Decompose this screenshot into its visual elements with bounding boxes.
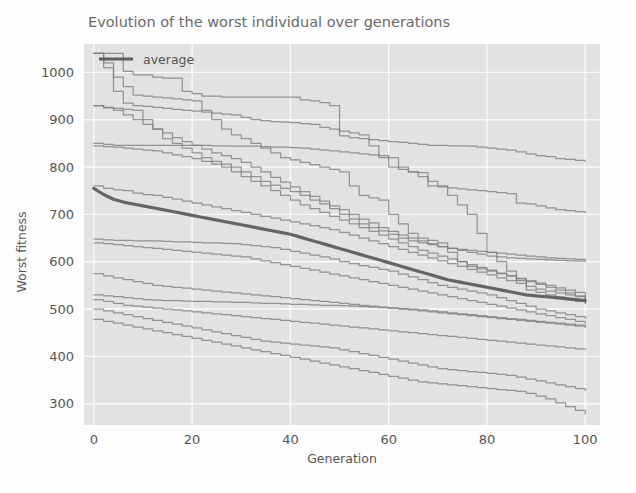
y-tick-label: 500: [49, 302, 74, 317]
x-tick-label: 80: [479, 432, 496, 447]
y-tick-label: 300: [49, 396, 74, 411]
page-title: Evolution of the worst individual over g…: [88, 14, 450, 30]
chart-svg: 3004005006007008009001000020406080100 Ev…: [0, 0, 636, 493]
figure-canvas: 3004005006007008009001000020406080100 Ev…: [0, 0, 636, 493]
y-tick-label: 900: [49, 112, 74, 127]
plot-background: [84, 44, 600, 425]
x-tick-label: 60: [380, 432, 397, 447]
x-tick-label: 20: [184, 432, 201, 447]
y-tick-label: 600: [49, 254, 74, 269]
x-tick-label: 0: [90, 432, 98, 447]
y-tick-label: 1000: [41, 65, 74, 80]
legend-label-average: average: [143, 52, 194, 67]
y-tick-label: 700: [49, 207, 74, 222]
x-tick-label: 40: [282, 432, 299, 447]
x-tick-label: 100: [573, 432, 598, 447]
y-tick-label: 400: [49, 349, 74, 364]
y-axis-label: Worst fitness: [14, 211, 29, 292]
x-axis-label: Generation: [307, 451, 377, 466]
y-tick-label: 800: [49, 160, 74, 175]
